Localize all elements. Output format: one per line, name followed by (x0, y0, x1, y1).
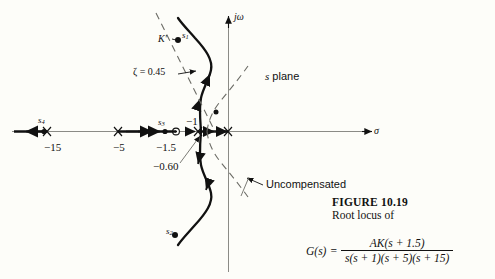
point-label-s3-sub: 3 (162, 120, 165, 127)
root-locus-figure: σ jω s plane −15 −5 −1.5 −1 −0.60 s1 s2 … (0, 0, 495, 279)
equation-equals: = (330, 245, 337, 257)
uncompensated-leader (241, 177, 263, 196)
point-label-s2: s2 (166, 227, 173, 237)
tick-label-minus-1p5: −1.5 (156, 142, 176, 153)
point-label-s4: s4 (38, 116, 45, 126)
complex-root-points (172, 37, 181, 238)
equation-denominator: s(s + 1)(s + 5)(s + 15) (341, 251, 453, 264)
equation-fraction: AK(s + 1.5) s(s + 1)(s + 5)(s + 15) (341, 237, 453, 264)
point-label-s2-sub: 2 (170, 229, 173, 236)
figure-caption: FIGURE 10.19 Root locus of (332, 196, 492, 221)
equation-lhs: G(s) (306, 245, 326, 257)
uncompensated-label: Uncompensated (266, 179, 346, 190)
equation-numerator: AK(s + 1.5) (366, 237, 429, 250)
jomega-axis-label: jω (234, 12, 244, 22)
transfer-function-equation: G(s) = AK(s + 1.5) s(s + 1)(s + 5)(s + 1… (306, 237, 453, 264)
point-s4 (41, 129, 46, 134)
point-label-s3: s3 (158, 118, 165, 128)
figure-caption-subtitle: Root locus of (332, 209, 492, 221)
breakaway-label: −0.60 (153, 161, 178, 172)
damping-ratio-label: ζ = 0.45 (133, 67, 165, 77)
breakaway-leader (180, 136, 200, 163)
gain-marker-label: K′ (158, 34, 167, 44)
point-label-s1: s1 (182, 31, 189, 41)
uncompensated-root-point (214, 110, 219, 115)
point-s3 (162, 129, 167, 134)
tick-label-minus-5: −5 (113, 142, 125, 153)
point-label-s4-sub: 4 (42, 118, 45, 125)
s-plane-label: s plane (265, 71, 299, 82)
tick-label-minus-1: −1 (186, 116, 198, 127)
point-label-s1-sub: 1 (186, 33, 189, 40)
zeta-leader (178, 71, 196, 74)
sigma-axis-label: σ (374, 126, 379, 136)
s-plane-label-text: plane (269, 70, 299, 82)
tick-label-minus-15: −15 (44, 142, 61, 153)
figure-caption-title: FIGURE 10.19 (332, 196, 492, 208)
